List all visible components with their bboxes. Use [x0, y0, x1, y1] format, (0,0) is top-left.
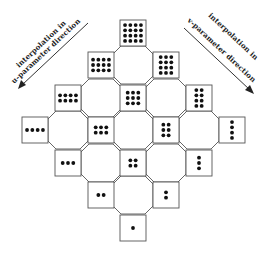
control-point-dot [74, 99, 78, 103]
control-point-dot [131, 96, 135, 100]
octagon-cell [146, 79, 186, 117]
control-point-dot [126, 91, 130, 95]
dot-square-2x1 [88, 182, 114, 208]
control-point-dot [134, 28, 138, 32]
control-point-dot [194, 93, 198, 97]
control-point-dot [96, 68, 100, 72]
control-point-dot [200, 93, 204, 97]
control-point-dot [91, 68, 95, 72]
control-point-dot [197, 156, 201, 160]
control-point-dot [169, 60, 173, 64]
control-point-dot [159, 55, 163, 59]
control-point-dot [136, 91, 140, 95]
control-point-dot [134, 164, 138, 168]
control-point-dot [161, 123, 165, 127]
control-point-dot [161, 128, 165, 132]
control-point-dot [164, 66, 168, 70]
control-point-dot [128, 28, 132, 32]
square-frame [120, 150, 146, 176]
octagon-cell [48, 111, 88, 149]
control-point-dot [164, 60, 168, 64]
control-point-dot [169, 66, 173, 70]
control-point-dot [36, 128, 40, 132]
control-point-dot [66, 161, 70, 165]
control-point-dot [104, 131, 108, 135]
control-point-dot [96, 193, 100, 197]
control-point-dot [128, 39, 132, 43]
control-point-dot [164, 71, 168, 75]
control-point-dot [102, 58, 106, 62]
octagon-cell [113, 176, 153, 214]
dot-square-2x4 [186, 85, 212, 111]
control-point-dot [194, 104, 198, 108]
dot-square-3x1 [55, 150, 81, 176]
dot-square-4x1 [22, 117, 48, 143]
control-point-dot [107, 63, 111, 67]
control-point-dot [102, 193, 106, 197]
dot-square-1x2 [153, 182, 179, 208]
control-point-dot [200, 104, 204, 108]
control-point-dot [139, 34, 143, 38]
control-point-dot [161, 133, 165, 137]
dot-square-2x2 [120, 150, 146, 176]
octagon-cell [146, 144, 186, 182]
control-point-dot [123, 34, 127, 38]
control-point-dot [167, 128, 171, 132]
square-frame [55, 85, 81, 111]
control-point-dot [194, 88, 198, 92]
u-direction-annotation: interpolation in u-parameter direction [9, 16, 88, 89]
control-point-dot [128, 158, 132, 162]
control-point-dot [169, 71, 173, 75]
control-point-dot [128, 164, 132, 168]
control-point-dot [134, 23, 138, 27]
control-point-dot [128, 34, 132, 38]
control-point-dot [69, 99, 73, 103]
control-point-dot [123, 23, 127, 27]
control-point-dot [164, 190, 168, 194]
control-point-dot [230, 120, 234, 124]
control-point-dot [30, 128, 34, 132]
control-point-dot [58, 93, 62, 97]
control-point-dot [96, 58, 100, 62]
control-point-dot [200, 99, 204, 103]
control-point-dot [123, 28, 127, 32]
u-direction-label-line2: u-parameter direction [9, 16, 82, 85]
control-point-dot [197, 166, 201, 170]
control-point-dot [230, 131, 234, 135]
control-point-dot [69, 93, 73, 97]
control-point-dot [71, 161, 75, 165]
control-point-dot [131, 101, 135, 105]
control-point-dot [134, 39, 138, 43]
dot-square-4x3 [88, 52, 114, 78]
u-direction-label-line1: interpolation in [14, 18, 68, 69]
control-point-dot [25, 128, 29, 132]
octagon-cell [81, 79, 121, 117]
control-point-dot [99, 131, 103, 135]
control-point-dot [41, 128, 45, 132]
dot-square-4x4 [120, 20, 146, 46]
octagon-cell [113, 111, 153, 149]
octagon-layer [48, 46, 219, 214]
control-point-dot [94, 131, 98, 135]
octagon-cell [179, 111, 219, 149]
control-point-dot [107, 68, 111, 72]
control-point-dot [139, 23, 143, 27]
octagon-cell [113, 46, 153, 84]
control-point-dot [230, 136, 234, 140]
control-point-dot [164, 196, 168, 200]
control-point-dot [167, 123, 171, 127]
control-point-dot [167, 133, 171, 137]
control-point-dot [61, 161, 65, 165]
square-frame [153, 182, 179, 208]
control-point-dot [104, 125, 108, 129]
control-point-dot [131, 226, 135, 230]
control-point-dot [91, 58, 95, 62]
control-point-dot [139, 39, 143, 43]
control-point-dot [136, 101, 140, 105]
control-point-dot [230, 125, 234, 129]
control-point-dot [94, 125, 98, 129]
control-point-dot [159, 71, 163, 75]
square-frame [88, 117, 114, 143]
dot-square-1x3 [186, 150, 212, 176]
control-point-dot [131, 91, 135, 95]
